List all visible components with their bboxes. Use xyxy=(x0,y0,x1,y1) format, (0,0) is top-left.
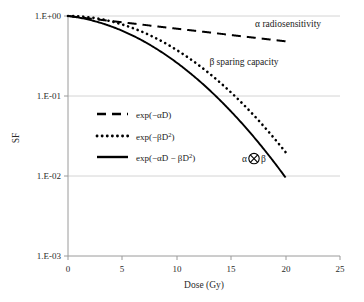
legend-text-3-main: exp(−αD − βD xyxy=(136,153,189,163)
y-axis-title: SF xyxy=(11,133,21,144)
x-tick-label-15: 15 xyxy=(227,264,237,274)
y-tick-label-2: 1.E-02 xyxy=(37,171,61,181)
alpha-radiosensitivity-annotation: α radiosensitivity xyxy=(255,19,321,29)
x-axis-tick-labels: 0 5 10 15 20 25 xyxy=(66,264,345,274)
legend-label-exp-alpha-d: exp(−αD) xyxy=(136,110,171,120)
y-tick-label-1: 1.E-01 xyxy=(37,91,61,101)
chart-container: 1.E+00 1.E-01 1.E-02 1.E-03 0 5 10 15 20… xyxy=(0,0,364,302)
beta-symbol: β xyxy=(261,154,266,164)
chart-svg: 1.E+00 1.E-01 1.E-02 1.E-03 0 5 10 15 20… xyxy=(0,0,364,302)
x-tick-label-25: 25 xyxy=(336,264,346,274)
legend-label-exp-alpha-d-beta-d2: exp(−αD − βD2) xyxy=(136,152,195,163)
alpha-symbol: α xyxy=(242,154,247,164)
y-axis-ticks xyxy=(64,16,68,256)
x-tick-label-20: 20 xyxy=(282,264,292,274)
y-tick-label-3: 1.E-03 xyxy=(37,251,62,261)
legend-text-2-main: exp(−βD xyxy=(136,132,169,142)
y-tick-label-0: 1.E+00 xyxy=(35,11,62,21)
x-tick-label-0: 0 xyxy=(66,264,71,274)
y-axis-tick-labels: 1.E+00 1.E-01 1.E-02 1.E-03 xyxy=(35,11,62,261)
x-tick-label-5: 5 xyxy=(120,264,125,274)
x-tick-label-10: 10 xyxy=(173,264,183,274)
x-axis-ticks xyxy=(68,256,340,260)
plot-area-background xyxy=(68,16,340,256)
x-axis-title: Dose (Gy) xyxy=(184,280,224,291)
beta-sparing-capacity-annotation: β sparing capacity xyxy=(209,57,278,67)
